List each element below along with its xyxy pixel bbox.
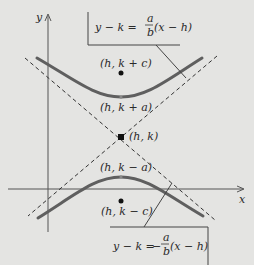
asymptote-negative-equation: y − k = − a b (x − h) xyxy=(112,231,208,258)
focus-bottom-point xyxy=(119,199,124,204)
asymptote-positive-equation: y − k = a b (x − h) xyxy=(94,12,192,39)
hyperbola-diagram: y x (h, k + c) (h, k + a) (h, k) (h, k −… xyxy=(0,0,254,265)
axes xyxy=(8,14,244,232)
x-axis-label: x xyxy=(239,193,246,206)
svg-text:y − k =: y − k = xyxy=(94,21,137,34)
svg-text:a: a xyxy=(147,12,154,25)
focus-bottom-label: (h, k − c) xyxy=(101,205,153,218)
svg-text:b: b xyxy=(163,245,170,258)
vertex-top-point xyxy=(119,95,122,98)
vertex-bottom-point xyxy=(119,175,122,178)
vertex-top-label: (h, k + a) xyxy=(100,101,152,114)
vertex-bottom-label: (h, k − a) xyxy=(100,161,152,174)
center-label: (h, k) xyxy=(129,130,158,143)
center-point xyxy=(118,134,124,140)
svg-text:a: a xyxy=(163,231,170,244)
svg-text:b: b xyxy=(147,26,154,39)
focus-top-label: (h, k + c) xyxy=(100,57,152,70)
svg-text:y − k =: y − k = xyxy=(112,240,155,253)
svg-text:(x − h): (x − h) xyxy=(170,240,208,253)
svg-text:(x − h): (x − h) xyxy=(154,21,192,34)
y-axis-label: y xyxy=(35,11,43,24)
focus-top-point xyxy=(119,71,124,76)
svg-text:−: − xyxy=(152,240,161,253)
